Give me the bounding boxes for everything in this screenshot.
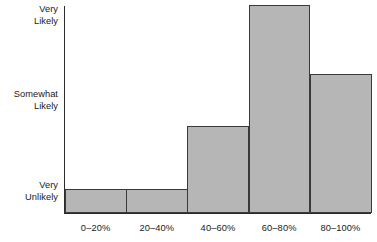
bar-20-40 — [126, 189, 188, 213]
x-tick-label-4: 80–100% — [310, 222, 371, 234]
x-tick-label-3: 60–80% — [249, 222, 310, 234]
x-tick-label-2: 40–60% — [187, 222, 248, 234]
bar-series — [65, 0, 371, 213]
x-tick-label-1: 20–40% — [126, 222, 187, 234]
bar-80-100 — [310, 74, 372, 213]
x-tick-label-0: 0–20% — [65, 222, 126, 234]
y-axis-label-very-likely: Very Likely — [0, 4, 58, 27]
likelihood-histogram-chart: Very Likely Somewhat Likely Very Unlikel… — [0, 0, 377, 242]
y-axis-label-somewhat-likely: Somewhat Likely — [0, 89, 58, 112]
x-axis-tick-labels: 0–20%20–40%40–60%60–80%80–100% — [65, 222, 371, 236]
bar-60-80 — [249, 5, 311, 213]
bar-40-60 — [187, 126, 249, 213]
y-axis-label-very-unlikely: Very Unlikely — [0, 180, 58, 203]
bar-0-20 — [65, 189, 127, 213]
